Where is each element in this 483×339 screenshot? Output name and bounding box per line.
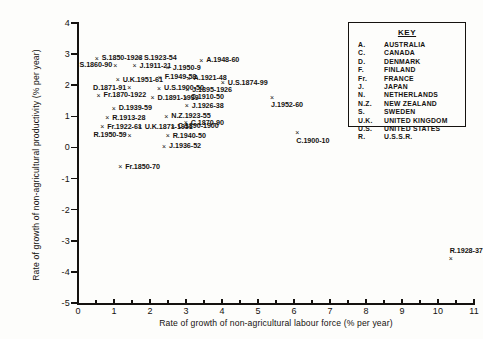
data-point-marker: × [166,64,170,71]
key-entry-abbr: A. [358,41,384,49]
x-tick-minor [239,300,240,304]
y-tick-major [71,53,78,55]
x-tick-minor [203,300,204,304]
key-entry: A.AUSTRALIA [349,41,465,49]
data-point-marker: × [118,163,122,170]
data-point-label: Fr.1870-1922 [104,91,147,99]
data-point-marker: × [295,129,299,136]
key-entry-abbr: N.Z. [358,100,384,108]
data-point-marker: × [133,62,137,69]
y-tick-label: 3 [56,49,70,59]
key-entry-name: DENMARK [384,58,465,66]
key-entry: U.S.UNITED STATES [349,125,465,133]
x-tick-major [293,299,295,305]
data-point-label: R.1940-50 [173,132,206,140]
key-entry: N.Z.NEW ZEALAND [349,100,465,108]
data-point-marker: × [112,105,116,112]
x-tick-major [221,299,223,305]
y-tick-label: 4 [56,18,70,28]
x-tick-minor [347,300,348,304]
x-tick-label: 8 [363,306,368,316]
data-point-marker: × [97,92,101,99]
x-tick-major [185,299,187,305]
x-tick-label: 4 [219,306,224,316]
data-point-marker: × [164,113,168,120]
data-point-label: D.1939-59 [119,104,152,112]
data-point-label: J.1926-38 [192,102,224,110]
key-entry-abbr: N. [358,91,384,99]
data-point-label: J.1950-9 [173,64,201,72]
x-tick-major [329,299,331,305]
x-tick-major [473,299,475,305]
data-point-marker: × [184,94,188,101]
x-axis-title: Rate of growth of non-agricultural labou… [77,318,475,328]
key-entry-abbr: S. [358,108,384,116]
y-tick-label: -4 [56,267,70,277]
y-tick-major [71,178,78,180]
key-entry-abbr: U.S. [358,125,384,133]
x-tick-label: 0 [75,306,80,316]
y-tick-label: -5 [56,298,70,308]
data-point-label: U.S.1874-99 [228,79,268,87]
data-point-marker: × [449,255,453,262]
y-tick-major [71,84,78,86]
y-tick-major [71,302,78,304]
key-entry: U.K.UNITED KINGDOM [349,117,465,125]
key-entry-name: FINLAND [384,66,465,74]
key-entry-name: JAPAN [384,83,465,91]
data-point-label: J.1952-60 [271,101,303,109]
data-point-marker: × [138,123,142,130]
data-point-label: C.1890-1900 [178,122,219,130]
data-point-label: J.1936-52 [169,142,201,150]
key-legend-box: KEY A.AUSTRALIAC.CANADAD.DENMARKF.FINLAN… [348,22,466,127]
x-tick-major [257,299,259,305]
x-tick-major [365,299,367,305]
y-tick-label: -3 [56,236,70,246]
data-point-marker: × [128,132,132,139]
key-entry-name: FRANCE [384,75,465,83]
data-point-marker: × [185,86,189,93]
key-entry: Fr.FRANCE [349,75,465,83]
x-tick-major [401,299,403,305]
key-title: KEY [349,28,465,37]
x-tick-label: 7 [327,306,332,316]
x-tick-minor [455,300,456,304]
y-tick-label: 1 [56,111,70,121]
x-tick-major [113,299,115,305]
key-entry: F.FINLAND [349,66,465,74]
data-point-label: S.1860-90 [79,61,112,69]
key-entry-abbr: C. [358,49,384,57]
key-entry: N.NETHERLANDS [349,91,465,99]
key-entry-name: NEW ZEALAND [384,100,465,108]
x-tick-minor [419,300,420,304]
data-point-marker: × [151,94,155,101]
key-entry-name: NETHERLANDS [384,91,465,99]
y-tick-label: 2 [56,80,70,90]
y-tick-label: -2 [56,205,70,215]
x-tick-minor [383,300,384,304]
x-tick-minor [167,300,168,304]
data-point-marker: × [158,74,162,81]
key-entry: C.CANADA [349,49,465,57]
key-entry: R.U.S.S.R. [349,133,465,141]
x-tick-major [437,299,439,305]
data-point-label: R.1928-37 [450,247,483,255]
key-entry-abbr: U.K. [358,117,384,125]
data-point-label: F.1949-58 [165,73,197,81]
data-point-marker: × [162,143,166,150]
x-tick-minor [131,300,132,304]
key-entry-name: SWEDEN [384,108,465,116]
key-entry-name: UNITED KINGDOM [384,117,465,125]
key-entry-abbr: Fr. [358,75,384,83]
x-tick-label: 5 [255,306,260,316]
x-tick-minor [275,300,276,304]
data-point-marker: × [171,123,175,130]
key-entry-name: AUSTRALIA [384,41,465,49]
key-entry: J.JAPAN [349,83,465,91]
key-entry: D.DENMARK [349,58,465,66]
data-point-label: C.1900-10 [296,137,329,145]
x-tick-major [149,299,151,305]
key-entry: S.SWEDEN [349,108,465,116]
y-tick-major [71,271,78,273]
key-entry-abbr: J. [358,83,384,91]
